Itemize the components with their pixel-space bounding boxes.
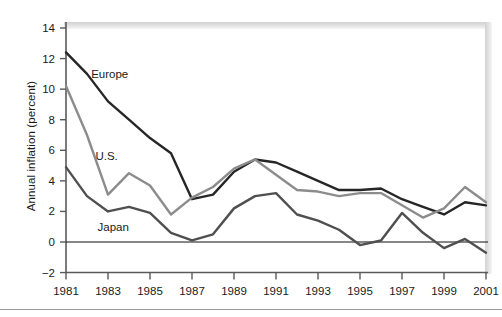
- x-tick-label: 1999: [431, 285, 457, 297]
- x-tick-label: 1981: [53, 285, 79, 297]
- x-tick-label: 1985: [137, 285, 163, 297]
- inflation-line-chart-figure: Annual inflation (percent) −202468101214…: [0, 0, 502, 317]
- y-tick-label: −2: [42, 267, 55, 279]
- x-tick-label: 1991: [263, 285, 289, 297]
- x-tick-label: 1993: [305, 285, 331, 297]
- y-tick-label: 2: [49, 205, 55, 217]
- series-line-us: [66, 86, 486, 217]
- series-label-us: U.S.: [95, 150, 117, 162]
- y-tick-label: 10: [42, 83, 55, 95]
- series-line-layer: [66, 52, 486, 252]
- x-tick-layer: 1981198319851987198919911993199519971999…: [53, 273, 499, 297]
- series-line-europe: [66, 52, 486, 214]
- series-label-europe: Europe: [91, 68, 128, 80]
- y-tick-layer: −202468101214: [42, 22, 66, 279]
- y-tick-label: 8: [49, 114, 55, 126]
- x-tick-label: 1987: [179, 285, 205, 297]
- x-tick-label: 2001: [473, 285, 499, 297]
- bottom-divider-rule: [0, 309, 502, 310]
- series-label-japan: Japan: [98, 221, 129, 233]
- x-tick-label: 1995: [347, 285, 373, 297]
- x-tick-label: 1997: [389, 285, 415, 297]
- chart-canvas: −202468101214 19811983198519871989199119…: [0, 0, 502, 317]
- x-tick-label: 1989: [221, 285, 247, 297]
- y-tick-label: 14: [42, 22, 55, 34]
- y-tick-label: 0: [49, 236, 55, 248]
- x-tick-label: 1983: [95, 285, 121, 297]
- y-tick-label: 4: [49, 175, 56, 187]
- y-tick-label: 6: [49, 144, 55, 156]
- series-line-japan: [66, 167, 486, 253]
- y-tick-label: 12: [42, 53, 55, 65]
